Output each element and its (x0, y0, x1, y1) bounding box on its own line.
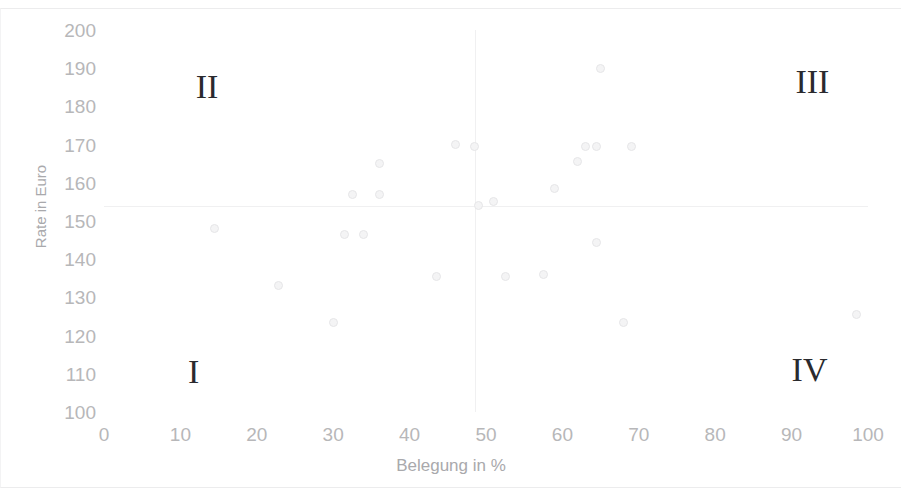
y-axis-tick-label: 180 (64, 97, 96, 116)
scatter-point[interactable] (596, 64, 605, 73)
x-axis-title: Belegung in % (0, 456, 902, 476)
scatter-point[interactable] (451, 140, 460, 149)
quadrant-divider-horizontal (104, 206, 868, 207)
scatter-point[interactable] (274, 281, 283, 290)
scatter-point[interactable] (470, 142, 479, 151)
scatter-point[interactable] (348, 190, 357, 199)
x-axis-tick-labels: 0102030405060708090100 (0, 425, 902, 451)
y-axis-tick-label: 130 (64, 288, 96, 307)
scatter-point[interactable] (501, 272, 510, 281)
scatter-point[interactable] (432, 272, 441, 281)
scatter-point[interactable] (375, 190, 384, 199)
scatter-point[interactable] (375, 159, 384, 168)
x-axis-tick-label: 10 (170, 425, 191, 444)
y-axis-tick-label: 120 (64, 327, 96, 346)
quadrant-label-ii: II (196, 70, 219, 104)
scatter-point[interactable] (210, 224, 219, 233)
scatter-point[interactable] (539, 270, 548, 279)
scatter-chart-screenshot: Rate in Euro 100110120130140150160170180… (0, 0, 902, 499)
scatter-point[interactable] (619, 318, 628, 327)
y-axis-tick-label: 140 (64, 250, 96, 269)
x-axis-tick-label: 0 (99, 425, 110, 444)
scatter-point[interactable] (592, 238, 601, 247)
quadrant-label-i: I (188, 355, 199, 389)
quadrant-label-iii: III (795, 65, 829, 99)
scatter-point[interactable] (852, 310, 861, 319)
y-axis-title: Rate in Euro (32, 137, 49, 277)
x-axis-tick-label: 50 (475, 425, 496, 444)
x-axis-tick-label: 80 (705, 425, 726, 444)
y-axis-tick-label: 100 (64, 403, 96, 422)
scatter-point[interactable] (359, 230, 368, 239)
y-axis-tick-label: 160 (64, 174, 96, 193)
x-axis-tick-label: 60 (552, 425, 573, 444)
x-axis-tick-label: 90 (781, 425, 802, 444)
scatter-point[interactable] (474, 201, 483, 210)
scatter-point[interactable] (340, 230, 349, 239)
x-axis-tick-label: 70 (628, 425, 649, 444)
scatter-point[interactable] (573, 157, 582, 166)
y-axis-tick-label: 110 (66, 365, 96, 384)
plot-area: IIIIIIIV (104, 30, 868, 412)
x-axis-tick-label: 100 (852, 425, 884, 444)
y-axis-tick-label: 190 (64, 59, 96, 78)
quadrant-divider-vertical (475, 30, 476, 412)
quadrant-label-iv: IV (792, 353, 828, 387)
scatter-point[interactable] (581, 142, 590, 151)
y-axis-tick-label: 170 (64, 136, 96, 155)
x-axis-tick-label: 40 (399, 425, 420, 444)
x-axis-tick-label: 30 (323, 425, 344, 444)
y-axis-tick-label: 150 (64, 212, 96, 231)
scatter-point[interactable] (550, 184, 559, 193)
y-axis-tick-label: 200 (64, 21, 96, 40)
scatter-point[interactable] (592, 142, 601, 151)
scatter-point[interactable] (627, 142, 636, 151)
scatter-point[interactable] (329, 318, 338, 327)
x-axis-tick-label: 20 (246, 425, 267, 444)
